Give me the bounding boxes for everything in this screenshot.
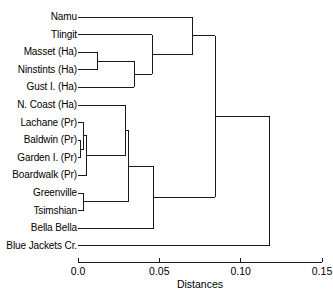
leaf-label-n-coast-ha: N. Coast (Ha) (17, 100, 77, 110)
x-axis-title: Distances (177, 279, 223, 290)
leaf-label-ninstints-ha: Ninstints (Ha) (18, 65, 77, 75)
leaf-label-tlingit: Tlingit (51, 30, 77, 40)
leaf-label-lachane-pr: Lachane (Pr) (20, 118, 77, 128)
leaf-label-bella-bella: Bella Bella (31, 223, 77, 233)
leaf-label-masset-ha: Masset (Ha) (24, 47, 77, 57)
x-axis-tick-label-0: 0.0 (71, 266, 86, 277)
leaf-label-greenville: Greenville (33, 188, 77, 198)
leaf-label-namu: Namu (51, 12, 77, 22)
leaf-label-garden-i-pr: Garden I. (Pr) (17, 153, 77, 163)
leaf-label-tsimshian: Tsimshian (33, 206, 77, 216)
x-axis-tick-label-1: 0.05 (149, 266, 169, 277)
leaf-label-boardwalk-pr: Boardwalk (Pr) (12, 170, 77, 180)
dendrogram-chart: NamuTlingitMasset (Ha)Ninstints (Ha)Gust… (0, 0, 333, 293)
x-axis-tick-label-3: 0.15 (312, 266, 332, 277)
leaf-label-blue-jackets-cr: Blue Jackets Cr. (6, 241, 77, 251)
x-axis-tick-label-2: 0.10 (230, 266, 250, 277)
leaf-label-baldwin-pr: Baldwin (Pr) (24, 135, 77, 145)
leaf-label-gust-i-ha: Gust I. (Ha) (27, 82, 77, 92)
